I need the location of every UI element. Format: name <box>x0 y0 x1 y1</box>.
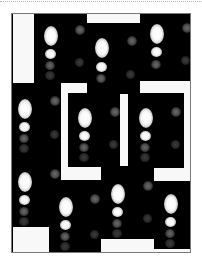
spot-medium <box>45 49 56 59</box>
spot-side-faint <box>143 214 152 223</box>
spot-large <box>18 172 32 192</box>
spot-faint <box>140 153 150 162</box>
spot-side <box>90 194 100 204</box>
spot-large <box>150 24 164 44</box>
spot-faint <box>165 239 175 248</box>
spot-side <box>75 25 85 35</box>
spot-large <box>18 99 32 119</box>
white-bracket-right-side <box>184 81 191 181</box>
spot-large <box>59 197 73 217</box>
spot-dim <box>140 143 150 152</box>
spot-side-faint <box>181 56 190 65</box>
spot-side <box>127 36 137 46</box>
spot-medium <box>60 220 71 230</box>
spot-medium <box>79 131 90 141</box>
spot-side <box>110 107 120 117</box>
spot-faint <box>19 144 29 153</box>
spot-medium <box>19 195 30 205</box>
spot-faint <box>60 242 70 251</box>
spot-medium <box>112 207 123 217</box>
spot-dim <box>19 207 29 216</box>
spot-medium <box>151 47 162 57</box>
spot-side <box>182 23 191 33</box>
spot-faint <box>45 71 55 80</box>
spot-large <box>111 184 125 204</box>
spot-dim <box>96 74 106 83</box>
spot-large <box>78 108 92 128</box>
spot-side <box>143 181 153 191</box>
spot-side-faint <box>50 130 59 139</box>
spot-dim <box>112 219 122 228</box>
spot-dim <box>60 232 70 241</box>
spot-medium <box>140 131 151 141</box>
spot-large <box>164 194 178 214</box>
white-bracket-left-side <box>61 83 68 180</box>
spot-large <box>139 108 153 128</box>
spot-faint <box>112 229 122 238</box>
spot-side <box>50 169 60 179</box>
spot-side-faint <box>75 58 84 67</box>
spot-side <box>171 107 181 117</box>
spot-dim <box>45 61 55 70</box>
figure-frame <box>11 13 191 253</box>
spot-medium <box>96 62 107 72</box>
spot-dim <box>151 60 161 69</box>
white-mask-bottom-center <box>101 239 154 253</box>
white-mask-bottom-right <box>154 249 191 253</box>
white-mask-top-strip <box>87 14 140 23</box>
spot-large <box>44 26 58 46</box>
spot-side-faint <box>90 230 99 239</box>
spot-side-faint <box>126 70 135 79</box>
white-divider-bar <box>120 94 128 166</box>
spot-side <box>50 96 60 106</box>
spot-medium <box>165 217 176 227</box>
spot-side-faint <box>171 140 180 149</box>
spot-faint <box>19 217 29 226</box>
white-bracket-left-bottom <box>61 167 101 180</box>
white-bracket-right-bottom <box>154 168 191 181</box>
spot-dim <box>19 134 29 143</box>
spot-medium <box>19 122 30 132</box>
spot-faint <box>79 153 89 162</box>
spot-side-faint <box>109 140 118 149</box>
white-mask-bottom-left <box>13 227 49 253</box>
spot-dim <box>165 229 175 238</box>
spot-large <box>95 38 109 58</box>
dotted-divider <box>0 1 202 2</box>
spot-dim <box>79 143 89 152</box>
white-mask-top-left <box>13 14 34 83</box>
